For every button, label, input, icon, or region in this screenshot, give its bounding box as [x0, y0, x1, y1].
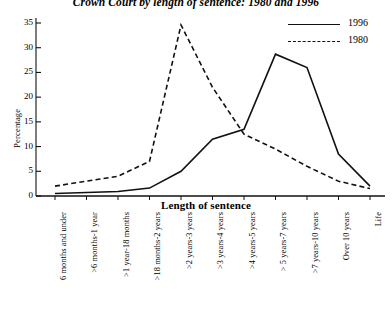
legend-label: 1996	[348, 17, 368, 28]
x-tick-label: >4 years-5 years	[248, 212, 257, 269]
x-tick-label: >2 years-3 years	[185, 212, 194, 269]
series-line-1996	[55, 54, 370, 193]
legend-line-swatch-solid	[288, 24, 340, 25]
x-axis-title: Length of sentence	[36, 199, 376, 211]
x-tick-label: Over 10 years	[342, 212, 351, 260]
legend-label: 1980	[348, 34, 368, 45]
x-tick-label: >18 months-2 years	[153, 212, 162, 280]
legend-item-1996: 1996	[288, 17, 388, 34]
x-tick-label: >3 years-4 years	[216, 212, 225, 269]
legend-line-swatch-dashed	[288, 41, 340, 42]
x-tick-label: >7 years-10 years	[311, 212, 320, 273]
legend-item-1980: 1980	[288, 34, 388, 51]
x-tick-label: 6 months and under	[59, 212, 68, 280]
x-tick-label: Life	[374, 212, 383, 226]
chart-legend: 19961980	[288, 17, 388, 51]
x-tick-label: > 5 years-7 years	[279, 212, 288, 271]
x-axis-tick-labels: 6 months and under>6 months-1 year>1 yea…	[0, 212, 392, 316]
chart-root: Crown Court by length of sentence: 1980 …	[0, 0, 392, 316]
x-tick-label: >1 year-18 months	[122, 212, 131, 277]
x-tick-label: >6 months-1 year	[90, 212, 99, 273]
